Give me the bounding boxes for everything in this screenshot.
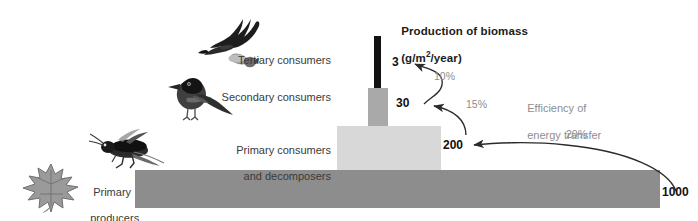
label-primary-producers-line1: Primary <box>93 186 131 198</box>
efficiency-caption-line1: Efficiency of <box>527 102 586 114</box>
energy-pyramid-diagram: Production of biomass (g/m2/year) Tertia… <box>0 0 698 221</box>
chart-title: Production of biomass (g/m2/year) <box>388 11 528 79</box>
label-secondary-consumers: Secondary consumers <box>161 91 331 104</box>
value-tertiary-consumers: 3 <box>392 55 399 69</box>
label-tertiary-consumers: Tertiary consumers <box>181 54 331 67</box>
value-primary-consumers: 200 <box>443 138 463 152</box>
percent-15: 15% <box>466 98 487 110</box>
label-primary-consumers: Primary consumers and decomposers <box>186 131 331 196</box>
leaf-icon <box>18 160 84 214</box>
chart-title-line1: Production of biomass <box>401 25 528 37</box>
value-primary-producers: 1000 <box>662 185 689 199</box>
efficiency-caption-line2: energy transfer <box>527 129 601 141</box>
percent-10: 10% <box>434 70 455 82</box>
arrow-15-percent <box>434 106 466 135</box>
efficiency-caption: Efficiency of energy transfer <box>515 88 601 157</box>
label-primary-producers-line2: producers <box>90 212 139 221</box>
label-primary-consumers-line2: and decomposers <box>244 170 331 182</box>
label-primary-producers: Primary producers <box>78 173 134 221</box>
value-secondary-consumers: 30 <box>396 96 409 110</box>
label-primary-consumers-line1: Primary consumers <box>236 144 331 156</box>
chart-title-line2: (g/m2/year) <box>401 52 462 64</box>
cricket-icon <box>88 128 170 170</box>
